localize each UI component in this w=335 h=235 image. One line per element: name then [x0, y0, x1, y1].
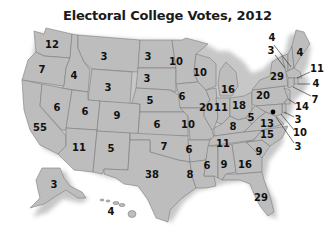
vote-label-nj: 14 — [295, 101, 309, 112]
vote-label-ar: 6 — [186, 144, 193, 155]
vote-label-ak: 3 — [51, 179, 58, 190]
vote-label-hi: 4 — [108, 206, 115, 217]
vote-label-ut: 6 — [82, 106, 89, 117]
vote-label-wy: 3 — [105, 82, 112, 93]
vote-label-fl: 29 — [254, 192, 268, 203]
vote-label-md: 10 — [293, 127, 307, 138]
vote-label-ks: 6 — [154, 119, 161, 130]
vote-label-ma: 11 — [310, 63, 324, 74]
vote-label-tn: 11 — [216, 138, 230, 149]
vote-label-ca: 55 — [33, 122, 47, 133]
vote-label-oh: 18 — [232, 100, 246, 111]
vote-label-wv: 5 — [248, 112, 255, 123]
vote-label-ny: 29 — [270, 71, 284, 82]
vote-label-al: 9 — [221, 159, 228, 170]
vote-label-ga: 16 — [238, 159, 252, 170]
vote-label-mt: 3 — [101, 51, 108, 62]
vote-label-ky: 8 — [230, 121, 237, 132]
vote-label-ne: 5 — [147, 95, 154, 106]
state-hi[interactable] — [100, 199, 136, 218]
vote-label-il: 20 — [199, 102, 213, 113]
vote-label-or: 7 — [39, 64, 46, 75]
vote-label-ok: 7 — [161, 141, 168, 152]
vote-label-ri: 4 — [313, 78, 320, 89]
vote-label-wa: 12 — [45, 39, 59, 50]
vote-label-dc: 3 — [295, 141, 302, 152]
vote-label-sc: 9 — [256, 146, 263, 157]
vote-label-ms: 6 — [204, 160, 211, 171]
vote-label-nv: 6 — [54, 102, 61, 113]
vote-label-mi: 16 — [221, 84, 235, 95]
capital-marker-icon — [271, 110, 276, 115]
vote-label-ct: 7 — [312, 94, 319, 105]
vote-label-nd: 3 — [145, 51, 152, 62]
vote-label-in: 11 — [214, 102, 228, 113]
vote-label-az: 11 — [72, 142, 86, 153]
vote-label-de: 3 — [295, 114, 302, 125]
vote-label-vt: 3 — [268, 45, 275, 56]
state-ct[interactable] — [288, 78, 294, 88]
vote-label-va: 13 — [260, 118, 274, 129]
vote-label-nh: 4 — [269, 32, 276, 43]
vote-label-me: 4 — [297, 47, 304, 58]
vote-label-sd: 3 — [144, 73, 151, 84]
vote-label-ia: 6 — [179, 91, 186, 102]
vote-label-pa: 20 — [256, 90, 270, 101]
state-ri[interactable] — [294, 78, 298, 84]
vote-label-la: 8 — [187, 169, 194, 180]
us-electoral-map: 1275564336911533567381061068102016111881… — [0, 0, 335, 235]
vote-label-tx: 38 — [145, 169, 159, 180]
vote-label-wi: 10 — [193, 67, 207, 78]
vote-label-nm: 5 — [108, 143, 115, 154]
vote-label-id: 4 — [71, 70, 78, 81]
vote-label-nc: 15 — [260, 129, 274, 140]
vote-label-mn: 10 — [169, 56, 183, 67]
vote-label-co: 9 — [114, 110, 121, 121]
vote-label-mo: 10 — [181, 119, 195, 130]
